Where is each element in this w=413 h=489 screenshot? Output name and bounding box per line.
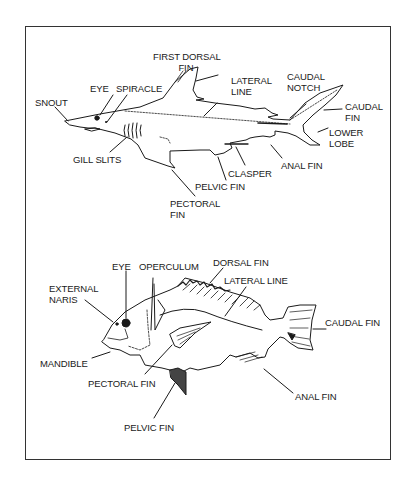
label-eye-shark: EYE [90, 83, 109, 94]
label-operculum: OPERCULUM [139, 261, 199, 272]
label-caudal-fin-shark: CAUDAL FIN [345, 101, 383, 123]
label-lateral-line: LATERAL LINE [231, 75, 272, 97]
label-pelvic-fin-fish: PELVIC FIN [124, 422, 174, 433]
label-eye-fish: EYE [112, 261, 131, 272]
shark-illustration [0, 0, 413, 489]
label-caudal-fin-fish: CAUDAL FIN [325, 317, 380, 328]
label-pectoral-fin-fish: PECTORAL FIN [88, 378, 155, 389]
label-pectoral-fin-shark: PECTORAL FIN [170, 198, 220, 220]
label-caudal-notch: CAUDAL NOTCH [287, 71, 325, 93]
label-anal-fin-fish: ANAL FIN [295, 391, 337, 402]
label-pelvic-fin-shark: PELVIC FIN [195, 181, 245, 192]
label-clasper: CLASPER [228, 168, 272, 179]
label-snout: SNOUT [35, 97, 68, 108]
label-first-dorsal-fin: FIRST DORSAL FIN [153, 51, 221, 73]
label-anal-fin-shark: ANAL FIN [281, 160, 323, 171]
label-dorsal-fin: DORSAL FIN [213, 257, 269, 268]
label-mandible: MANDIBLE [40, 358, 88, 369]
label-lower-lobe: LOWER LOBE [329, 127, 363, 149]
label-spiracle: SPIRACLE [116, 83, 162, 94]
label-external-naris: EXTERNAL NARIS [49, 283, 98, 305]
label-lateral-line-fish: LATERAL LINE [224, 275, 288, 286]
label-gill-slits: GILL SLITS [73, 154, 121, 165]
